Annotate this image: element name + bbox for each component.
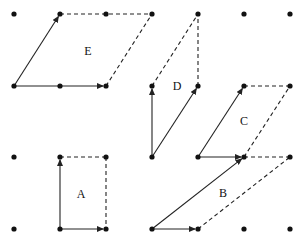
grid-dot — [149, 83, 154, 88]
shape-label: D — [173, 79, 182, 93]
vector-parallelogram-diagram: EDCAB — [0, 0, 305, 238]
vector-arrow — [152, 89, 196, 157]
grid-dot — [241, 226, 246, 231]
grid-dot — [149, 226, 154, 231]
grid-dot — [287, 11, 292, 16]
shape-label: A — [77, 187, 86, 201]
grid-dot — [287, 83, 292, 88]
grid-dot — [11, 226, 16, 231]
grid-dot — [11, 154, 16, 159]
vector-arrow — [198, 89, 242, 157]
grid-dot — [103, 226, 108, 231]
vector-arrow — [152, 159, 242, 229]
edges-layer — [14, 14, 290, 229]
labels-layer: EDCAB — [77, 44, 248, 201]
grid-dot — [57, 226, 62, 231]
grid-dot — [11, 11, 16, 16]
grid-dot — [103, 11, 108, 16]
vector-arrow — [14, 17, 58, 86]
dashed-edge — [152, 14, 198, 86]
grid-dot — [57, 83, 62, 88]
grid-dot — [241, 11, 246, 16]
grid-dot — [241, 154, 246, 159]
grid-dot — [195, 226, 200, 231]
parallelogram-e — [14, 14, 152, 86]
shape-label: C — [240, 114, 248, 128]
grid-dot — [103, 154, 108, 159]
grid-dot — [287, 154, 292, 159]
grid-dot — [195, 11, 200, 16]
dashed-edge — [244, 86, 290, 157]
grid-dot — [241, 83, 246, 88]
grid-dot — [11, 83, 16, 88]
shape-label: E — [84, 44, 91, 58]
grid-dot — [287, 226, 292, 231]
dashed-edge — [198, 157, 290, 229]
grid-dot — [57, 11, 62, 16]
grid-dot — [195, 83, 200, 88]
grid-dot — [57, 154, 62, 159]
grid-dot — [103, 83, 108, 88]
shape-label: B — [219, 186, 227, 200]
grid-dot — [195, 154, 200, 159]
dashed-edge — [106, 14, 152, 86]
grid-dot — [149, 11, 154, 16]
grid-dot — [149, 154, 154, 159]
